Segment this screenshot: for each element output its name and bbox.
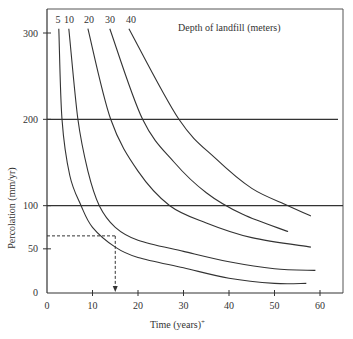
x-axis-title-text: Time (years) (150, 319, 201, 331)
curve-depth-10 (69, 29, 316, 271)
y-tick-label: 200 (23, 114, 38, 125)
arrow-down-icon (113, 286, 118, 292)
depth-curves (59, 29, 316, 284)
y-tick-label: 300 (23, 28, 38, 39)
series-label-depth-30: 30 (105, 14, 115, 25)
y-axis-title: Percolation (mm/yr) (6, 167, 18, 248)
x-tick-label: 60 (315, 300, 325, 311)
curve-depth-40 (129, 29, 311, 216)
series-label-depth-5: 5 (56, 14, 61, 25)
example-lookup (47, 236, 118, 292)
x-axis-title-mark: + (201, 318, 205, 326)
series-labels: 510203040 (56, 14, 137, 25)
y-tick-label: 50 (28, 243, 38, 254)
chart: 0102030405060 050100200300 510203040 Dep… (0, 0, 353, 339)
x-tick-label: 10 (88, 300, 98, 311)
series-label-depth-10: 10 (64, 14, 74, 25)
series-label-depth-20: 20 (84, 14, 94, 25)
curve-depth-5 (59, 29, 306, 284)
reference-lines (47, 119, 343, 205)
x-tick-label: 0 (45, 300, 50, 311)
series-label-depth-40: 40 (126, 14, 136, 25)
y-tick-label: 0 (33, 287, 38, 298)
x-tick-label: 50 (270, 300, 280, 311)
plot-frame (47, 9, 343, 293)
y-tick-label: 100 (23, 200, 38, 211)
depth-legend-title: Depth of landfill (meters) (178, 22, 280, 34)
x-axis-title: Time (years)+ (150, 318, 205, 331)
x-tick-label: 30 (179, 300, 189, 311)
x-tick-label: 40 (224, 300, 234, 311)
curve-depth-30 (110, 29, 288, 232)
x-tick-label: 20 (133, 300, 143, 311)
